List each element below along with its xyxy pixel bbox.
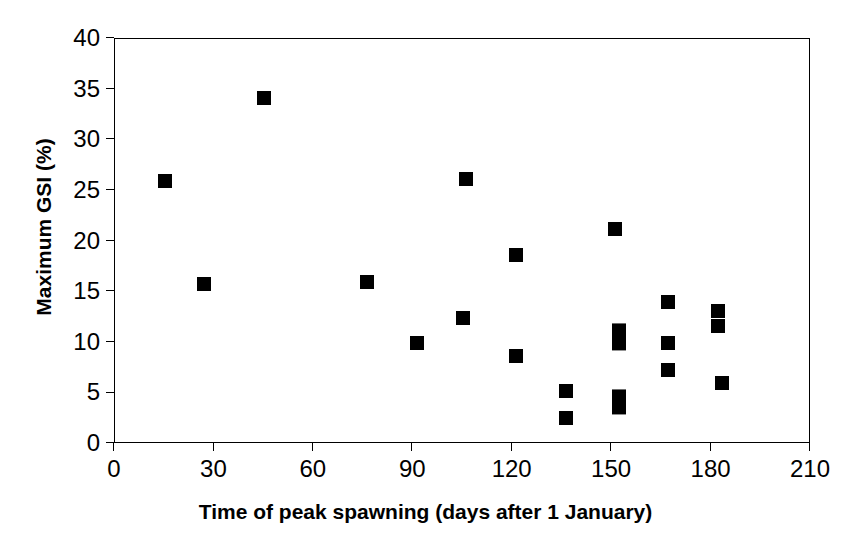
data-point-marker xyxy=(559,384,573,398)
x-axis-tick-label: 210 xyxy=(770,455,850,483)
data-point-marker xyxy=(711,319,725,333)
data-point-marker xyxy=(715,376,729,390)
data-points-layer xyxy=(115,39,809,442)
data-point-marker xyxy=(360,275,374,289)
x-axis-tick xyxy=(610,443,611,451)
data-point-marker xyxy=(612,389,626,414)
data-point-marker xyxy=(459,172,473,186)
x-axis-title: Time of peak spawning (days after 1 Janu… xyxy=(0,500,851,524)
x-axis-tick-label: 180 xyxy=(671,455,751,483)
data-point-marker xyxy=(197,277,211,291)
x-axis-tick-label: 90 xyxy=(372,455,452,483)
data-point-marker xyxy=(612,324,626,351)
x-axis-tick xyxy=(710,443,711,451)
y-axis-tick xyxy=(106,138,114,139)
data-point-marker xyxy=(711,304,725,318)
scatter-plot-figure: 0510152025303540 0306090120150180210 Tim… xyxy=(0,0,851,559)
plot-area xyxy=(114,38,810,443)
x-axis-tick xyxy=(511,443,512,451)
data-point-marker xyxy=(661,363,675,377)
x-axis-tick-label: 0 xyxy=(74,455,154,483)
y-axis-tick xyxy=(106,290,114,291)
data-point-marker xyxy=(509,248,523,262)
data-point-marker xyxy=(559,411,573,425)
x-axis-tick-label: 60 xyxy=(273,455,353,483)
data-point-marker xyxy=(158,174,172,188)
x-axis-tick xyxy=(113,443,114,451)
y-axis-title: Maximum GSI (%) xyxy=(32,67,56,387)
data-point-marker xyxy=(661,295,675,309)
y-axis-tick xyxy=(106,341,114,342)
data-point-marker xyxy=(257,91,271,105)
y-axis-tick xyxy=(106,37,114,38)
data-point-marker xyxy=(608,222,622,236)
data-point-marker xyxy=(661,336,675,350)
y-axis-tick-label: 40 xyxy=(40,24,100,52)
data-point-marker xyxy=(509,349,523,363)
x-axis-tick-label: 120 xyxy=(472,455,552,483)
x-axis-tick xyxy=(809,443,810,451)
y-axis-tick xyxy=(106,189,114,190)
x-axis-tick xyxy=(213,443,214,451)
x-axis-tick xyxy=(312,443,313,451)
y-axis-tick xyxy=(106,240,114,241)
y-axis-tick xyxy=(106,392,114,393)
data-point-marker xyxy=(410,336,424,350)
x-axis-tick xyxy=(411,443,412,451)
y-axis-tick xyxy=(106,88,114,89)
data-point-marker xyxy=(456,311,470,325)
x-axis-tick-label: 150 xyxy=(571,455,651,483)
x-axis-tick-label: 30 xyxy=(173,455,253,483)
y-axis-tick-label: 0 xyxy=(40,429,100,457)
